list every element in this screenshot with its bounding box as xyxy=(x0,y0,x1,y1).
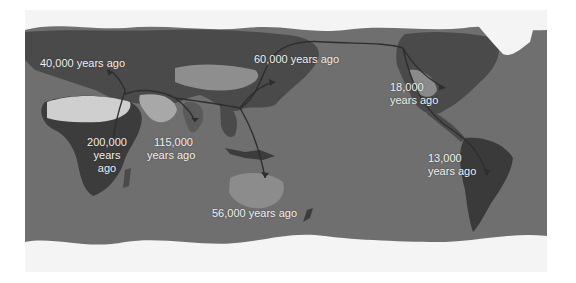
label-200000-line3: ago xyxy=(82,162,132,174)
label-115000-line2: years ago xyxy=(147,149,195,161)
label-200000-line1: 200,000 xyxy=(82,136,132,148)
label-40000-years-europe: 40,000 years ago xyxy=(40,57,125,69)
label-18000-line1: 18,000 xyxy=(390,81,424,93)
label-56000-years-australia: 56,000 years ago xyxy=(212,207,297,219)
label-13000-line2: years ago xyxy=(428,165,476,177)
world-migration-map: 40,000 years ago 60,000 years ago 18,000… xyxy=(25,10,547,272)
label-13000-line1: 13,000 xyxy=(428,152,462,164)
label-60000-years-east-asia: 60,000 years ago xyxy=(254,53,339,65)
label-200000-line2: years xyxy=(82,149,132,161)
label-18000-line2: years ago xyxy=(390,94,438,106)
label-115000-line1: 115,000 xyxy=(154,136,193,148)
